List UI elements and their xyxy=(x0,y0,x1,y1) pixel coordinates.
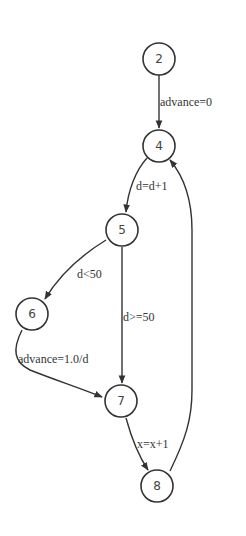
node-7: 7 xyxy=(105,385,137,417)
node-2: 2 xyxy=(143,43,175,75)
node-label: 7 xyxy=(117,394,125,408)
edge-label-d-ge-50: d>=50 xyxy=(123,310,155,324)
node-label: 2 xyxy=(155,52,163,66)
node-5: 5 xyxy=(106,214,138,246)
node-6: 6 xyxy=(16,298,48,330)
edge-label-advance-0: advance=0 xyxy=(160,95,212,109)
edge-8-to-4 xyxy=(170,160,192,471)
node-label: 6 xyxy=(28,307,36,321)
control-flow-diagram: advance=0 d=d+1 d<50 d>=50 advance=1.0/d… xyxy=(0,0,246,536)
node-4: 4 xyxy=(143,130,175,162)
node-8: 8 xyxy=(141,470,173,502)
node-label: 4 xyxy=(155,139,163,153)
node-label: 8 xyxy=(153,479,161,493)
edge-label-x-increment: x=x+1 xyxy=(137,437,169,451)
node-label: 5 xyxy=(118,223,126,237)
edge-label-d-increment: d=d+1 xyxy=(136,179,168,193)
edge-label-d-lt-50: d<50 xyxy=(77,267,102,281)
edge-label-advance-inverse-d: advance=1.0/d xyxy=(18,352,88,366)
